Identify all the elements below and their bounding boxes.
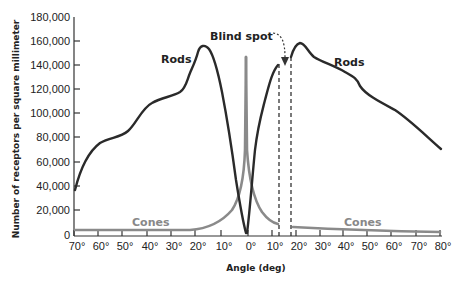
rods-curve-left [75, 46, 246, 233]
y-tick-label: 20,000 [36, 204, 70, 216]
y-tick-label: 80,000 [36, 131, 70, 143]
blind-spot-arrow-line [273, 33, 285, 58]
x-axis-title: Angle (deg) [226, 263, 285, 273]
y-tick-label: 100,000 [30, 107, 70, 119]
y-tick-label: 160,000 [30, 35, 70, 47]
rods-curve-right [291, 43, 441, 149]
x-tick-label: 10° [267, 240, 284, 252]
y-tick-label: 40,000 [36, 180, 70, 192]
x-tick-label: 70° [69, 240, 86, 252]
y-tick-label: 60,000 [36, 156, 70, 168]
x-tick-label: 60° [93, 240, 110, 252]
x-tick-label: 50° [362, 240, 379, 252]
y-tick-label: 140,000 [30, 59, 70, 71]
x-tick-label: 10° [216, 240, 233, 252]
cones-series [75, 57, 440, 232]
y-axis-title: Number of receptors per square millimete… [11, 19, 21, 238]
x-tick-label: 80° [435, 240, 452, 252]
x-tick-label: 40° [338, 240, 355, 252]
x-tick-label: 0° [246, 240, 257, 252]
x-tick-label: 20° [190, 240, 207, 252]
x-tick-label: 40° [142, 240, 159, 252]
blind-spot-label: Blind spot [210, 30, 273, 43]
x-tick-label: 30° [166, 240, 183, 252]
rods-label-left: Rods [161, 53, 192, 66]
cones-label-right: Cones [344, 216, 382, 229]
arrowhead-icon [281, 57, 289, 66]
rods-curve-center-right [247, 65, 278, 233]
x-tick-label: 50° [117, 240, 134, 252]
rods-label-right: Rods [334, 56, 365, 69]
blind-spot-arrow [273, 33, 289, 66]
x-tick-label: 70° [411, 240, 428, 252]
blind-spot-markers [279, 57, 291, 236]
receptor-density-chart: Number of receptors per square millimete… [0, 0, 458, 286]
x-axis-tick-labels: 70° 60° 50° 40° 30° 20° 10° 0° 10° 20° 3… [69, 240, 452, 252]
y-axis [74, 17, 80, 236]
x-tick-label: 30° [315, 240, 332, 252]
y-tick-label: 180,000 [30, 11, 70, 23]
x-tick-label: 20° [291, 240, 308, 252]
y-axis-tick-labels: 180,000 160,000 140,000 120,000 100,000 … [30, 11, 70, 241]
y-tick-label: 120,000 [30, 83, 70, 95]
x-tick-label: 60° [386, 240, 403, 252]
cones-label-left: Cones [132, 216, 170, 229]
